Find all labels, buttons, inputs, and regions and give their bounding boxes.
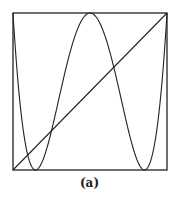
identity-line xyxy=(13,13,167,170)
figure-caption: (a) xyxy=(0,176,179,190)
plot-area xyxy=(0,0,179,201)
